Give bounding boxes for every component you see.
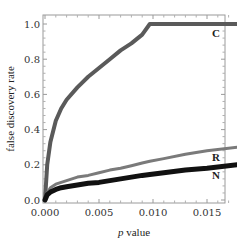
y-tick-label: 1.0: [24, 19, 40, 30]
x-tick-label: 0.010: [139, 207, 168, 218]
y-tick-label: 0.6: [24, 89, 40, 100]
y-tick-label: 0.8: [24, 54, 40, 65]
curve-label-r: R: [212, 151, 221, 163]
y-tick-label: 0.4: [24, 124, 40, 135]
chart-canvas: 0.00.20.40.60.81.0 0.0000.0050.0100.015 …: [0, 0, 237, 245]
curve-label-c: C: [212, 27, 220, 39]
x-tick-label: 0.015: [193, 207, 222, 218]
y-tick-label: 0.2: [24, 159, 40, 170]
curve-label-n: N: [212, 169, 220, 181]
x-tick-label: 0.005: [85, 207, 114, 218]
x-tick-label: 0.000: [31, 207, 60, 218]
y-tick-label: 0.0: [24, 195, 40, 206]
y-axis-label: false discovery rate: [4, 66, 16, 152]
x-axis-label-rest: value: [123, 226, 150, 238]
x-axis-label: p value: [117, 226, 150, 238]
